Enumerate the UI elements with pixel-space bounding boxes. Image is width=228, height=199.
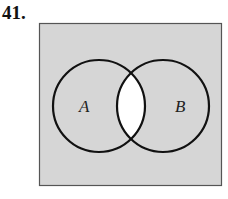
venn-diagram: A B: [0, 0, 228, 199]
set-label-a: A: [78, 97, 90, 116]
set-label-b: B: [175, 97, 186, 116]
